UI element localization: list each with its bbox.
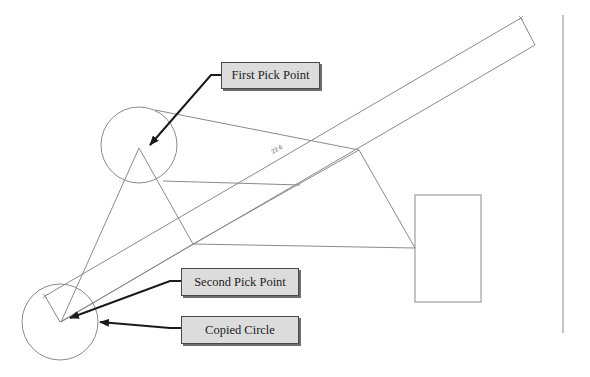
original-circle	[101, 107, 177, 183]
dimension-label: 22.6	[270, 143, 284, 154]
callout-copied-circle: Copied Circle	[181, 316, 299, 344]
triangle-base	[61, 244, 193, 322]
callout-label: Copied Circle	[205, 323, 275, 338]
edge-bottom	[193, 244, 415, 248]
corner-marker-icon	[519, 16, 523, 20]
corner-marker-icon	[43, 294, 47, 298]
callout-second-pick-point: Second Pick Point	[181, 268, 299, 296]
leader-second-pick	[70, 281, 181, 318]
edge-right-diag	[359, 150, 415, 248]
callout-first-pick-point: First Pick Point	[221, 62, 320, 89]
edge-mid-diag	[193, 150, 359, 244]
leader-first-pick	[150, 75, 221, 145]
rectangle	[415, 195, 481, 302]
leader-copied-circle	[100, 322, 181, 328]
tangent-line-mid	[163, 181, 300, 185]
callout-label: First Pick Point	[232, 68, 310, 83]
callout-label: Second Pick Point	[194, 275, 286, 290]
triangle-side-right	[139, 148, 193, 244]
